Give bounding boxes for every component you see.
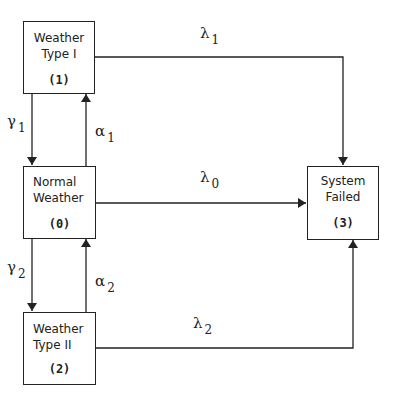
rate-label-gamma2: γ2 (7, 258, 24, 276)
label-line2: Failed (326, 190, 361, 204)
arrow-lambda2 (95, 240, 353, 348)
label-line1: Weather (33, 322, 84, 336)
state-weather-type-1: Weather Type I (1) (23, 21, 95, 94)
rate-subscript: 1 (212, 33, 220, 47)
state-label: Weather Type I (24, 30, 94, 62)
rate-label-lambda0: λ0 (200, 168, 217, 186)
rate-symbol: γ (7, 258, 16, 276)
rate-symbol: α (95, 122, 105, 140)
state-number: (3) (308, 216, 378, 230)
label-line1: Normal (33, 175, 76, 189)
state-system-failed: System Failed (3) (307, 166, 379, 240)
rate-symbol: λ (200, 168, 210, 186)
arrow-lambda1 (94, 57, 343, 165)
state-number: (1) (24, 73, 94, 87)
rate-subscript: 2 (205, 323, 213, 337)
rate-label-gamma1: γ1 (7, 112, 24, 130)
rate-subscript: 1 (18, 121, 26, 135)
label-line2: Type I (42, 47, 77, 61)
rate-symbol: α (95, 272, 105, 290)
rate-label-lambda2: λ2 (193, 314, 210, 332)
state-weather-type-2: Weather Type II (2) (23, 312, 96, 385)
state-label: Weather Type II (24, 321, 95, 353)
rate-symbol: λ (200, 24, 210, 42)
rate-subscript: 1 (107, 131, 115, 145)
state-normal-weather: Normal Weather (0) (23, 166, 96, 239)
rate-subscript: 0 (212, 177, 220, 191)
state-label: Normal Weather (24, 174, 95, 206)
state-label: System Failed (308, 173, 378, 205)
label-line1: Weather (34, 31, 85, 45)
rate-subscript: 2 (107, 281, 115, 295)
label-line2: Type II (33, 338, 71, 352)
rate-symbol: λ (193, 314, 203, 332)
rate-subscript: 2 (18, 267, 26, 281)
rate-label-alpha2: α2 (95, 272, 113, 290)
rate-label-lambda1: λ1 (200, 24, 217, 42)
state-number: (2) (24, 362, 95, 376)
rate-label-alpha1: α1 (95, 122, 113, 140)
label-line2: Weather (33, 191, 84, 205)
rate-symbol: γ (7, 112, 16, 130)
state-number: (0) (24, 217, 95, 231)
label-line1: System (321, 174, 366, 188)
